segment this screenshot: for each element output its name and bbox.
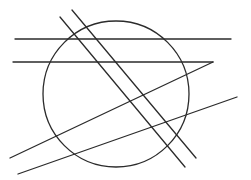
line-diagonal-shallow-lower (18, 97, 237, 174)
line-diagonal-steep-right (72, 10, 196, 158)
geometry-diagram (0, 0, 251, 180)
line-diagonal-shallow-upper (10, 62, 213, 158)
